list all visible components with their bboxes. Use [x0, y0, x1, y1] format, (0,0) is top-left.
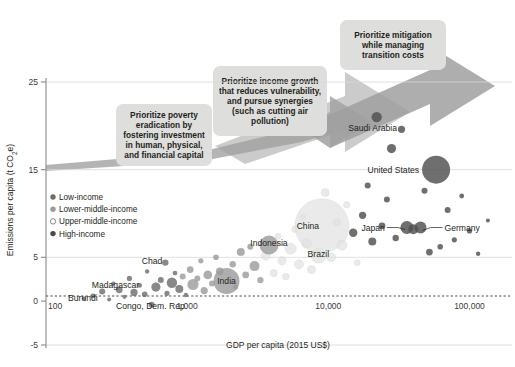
legend-swatch[interactable] [50, 231, 55, 236]
country-label: Saudi Arabia [348, 123, 397, 133]
country-label: Madagascar [92, 280, 139, 290]
country-label: India [217, 276, 236, 286]
legend-label[interactable]: High-income [59, 230, 105, 239]
country-label: Congo, Dem. Rep. [116, 301, 187, 311]
country-label: China [297, 221, 320, 231]
country-label: Chad [142, 256, 163, 266]
legend-label[interactable]: Low-income [59, 193, 104, 202]
leader-line [423, 228, 443, 231]
labels-layer: BurundiCongo, Dem. Rep.MadagascarChadInd… [0, 0, 515, 367]
legend-swatch[interactable] [50, 194, 55, 199]
leader-line [387, 228, 405, 230]
legend-swatch[interactable] [50, 219, 55, 224]
legend-swatch[interactable] [50, 207, 55, 212]
country-label: Japan [361, 223, 385, 233]
leader-lines [387, 228, 443, 231]
legend[interactable]: Low-incomeLower-middle-incomeUpper-middl… [50, 193, 137, 239]
country-label: Brazil [308, 249, 330, 259]
emissions-gdp-bubble-chart: Prioritize povertyeradication byfosterin… [0, 0, 515, 367]
legend-label[interactable]: Lower-middle-income [59, 205, 138, 214]
legend-label[interactable]: Upper-middle-income [59, 217, 138, 226]
country-label: Germany [445, 223, 481, 233]
country-label: Indonesia [250, 238, 287, 248]
country-label: United States [368, 165, 420, 175]
country-label: Burundi [68, 293, 98, 303]
